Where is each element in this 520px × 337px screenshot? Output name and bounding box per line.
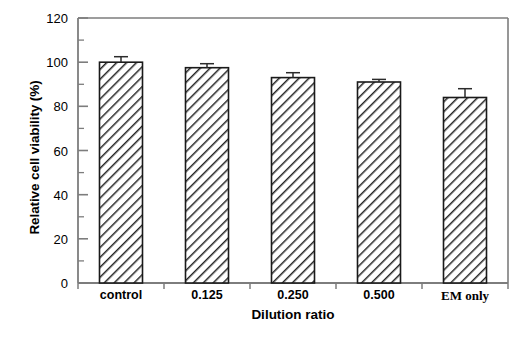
error-bar-em-only [458, 89, 472, 98]
bar-control [100, 62, 143, 283]
bar-0-250 [272, 78, 315, 283]
x-tick-label-0-125: 0.125 [164, 288, 250, 308]
bar-0-500 [358, 82, 401, 283]
plot-area [0, 0, 520, 337]
x-tick-label-group: control 0.125 0.250 0.500 EM only [78, 288, 508, 308]
error-bar-control [114, 57, 128, 63]
x-tick-label-em-only: EM only [422, 288, 508, 308]
bar-series [100, 62, 487, 283]
x-tick-label-0-500: 0.500 [336, 288, 422, 308]
y-major-ticks [78, 18, 88, 283]
bar-em-only [444, 98, 487, 284]
bar-0-125 [186, 68, 229, 283]
x-tick-label-control: control [78, 288, 164, 308]
x-axis-title: Dilution ratio [78, 307, 508, 322]
x-tick-label-0-250: 0.250 [250, 288, 336, 308]
figure-panel: Relative cell viability (%) 120 100 80 6… [0, 0, 520, 337]
